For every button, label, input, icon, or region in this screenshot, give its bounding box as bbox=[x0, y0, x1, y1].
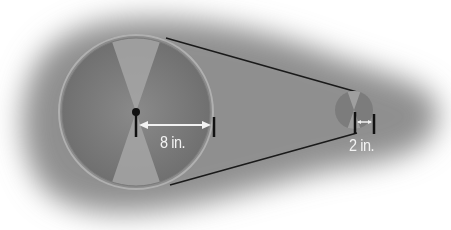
small-radius-label: 2 in. bbox=[349, 136, 374, 156]
diagram-canvas bbox=[0, 0, 451, 230]
pulley-diagram: 8 in. 2 in. bbox=[0, 0, 451, 230]
large-radius-label: 8 in. bbox=[160, 133, 185, 153]
